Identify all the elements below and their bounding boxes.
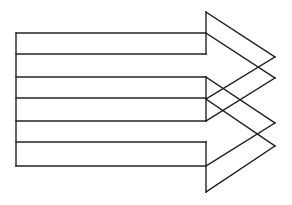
arrow-line-segment [206,99,275,146]
arrow-line-segment [206,33,275,78]
arrow-line-segment [206,12,275,57]
arrow-line-segment [206,57,275,99]
arrow-line-segment [206,146,275,192]
arrows-diagram [0,0,292,205]
arrow-line-segment [206,123,275,166]
